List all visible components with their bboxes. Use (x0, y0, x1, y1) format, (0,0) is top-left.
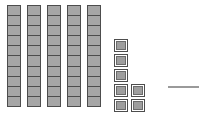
answer-blank-line[interactable] (168, 86, 199, 88)
ones-unit-cube (114, 69, 128, 82)
tens-rods-group (7, 5, 101, 106)
rod-unit-cell (87, 96, 101, 107)
ones-units-group (114, 39, 145, 112)
ones-row (114, 39, 145, 52)
tens-rod (47, 5, 61, 106)
tens-rod (27, 5, 41, 106)
ones-unit-cube (131, 84, 145, 97)
ones-unit-cube (114, 39, 128, 52)
base-ten-blocks-figure: Base-ten blocks counting figure (0, 0, 199, 128)
rod-unit-cell (67, 96, 81, 107)
ones-row (114, 84, 145, 97)
ones-row (114, 69, 145, 82)
tens-rod (7, 5, 21, 106)
ones-unit-cube (114, 54, 128, 67)
ones-unit-cube (114, 99, 128, 112)
rod-unit-cell (27, 96, 41, 107)
tens-rod (67, 5, 81, 106)
ones-unit-cube (131, 99, 145, 112)
ones-row (114, 99, 145, 112)
rod-unit-cell (47, 96, 61, 107)
ones-row (114, 54, 145, 67)
rod-unit-cell (7, 96, 21, 107)
ones-unit-cube (114, 84, 128, 97)
tens-rod (87, 5, 101, 106)
